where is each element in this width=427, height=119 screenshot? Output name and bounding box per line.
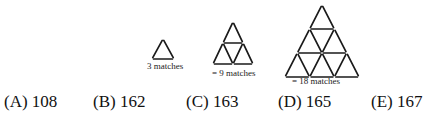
figure-3-row-triangle: [285, 5, 359, 77]
option-e[interactable]: (E) 167: [371, 92, 422, 112]
figure-2-caption: = 9 matches: [212, 68, 256, 78]
figure-1-caption: 3 matches: [147, 61, 183, 71]
triangle-1-icon: [152, 39, 174, 59]
option-d[interactable]: (D) 165: [278, 92, 331, 112]
answer-options: (A) 108 (B) 162 (C) 163 (D) 165 (E) 167: [0, 92, 427, 114]
option-a[interactable]: (A) 108: [4, 92, 57, 112]
triangle-3-icon: [285, 5, 359, 77]
option-c[interactable]: (C) 163: [186, 92, 238, 112]
option-b[interactable]: (B) 162: [93, 92, 145, 112]
figure-2-row-triangle: [213, 22, 253, 64]
figure-1-row-triangle: [152, 39, 174, 59]
figure-3-caption: = 18 matches: [292, 76, 340, 86]
triangle-2-icon: [213, 22, 253, 64]
